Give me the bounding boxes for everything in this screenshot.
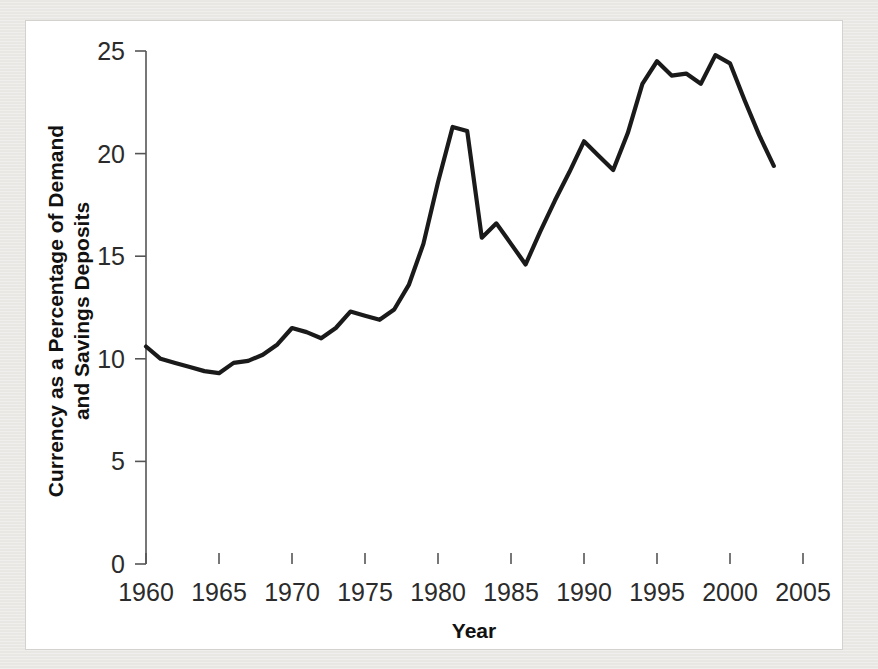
data-series-line bbox=[146, 55, 774, 373]
y-tick-marks bbox=[135, 51, 146, 564]
chart-panel: 0 5 10 15 20 25 1960 1965 1970 bbox=[25, 20, 843, 650]
x-tick-label-1995: 1995 bbox=[629, 578, 685, 606]
y-tick-label-20: 20 bbox=[97, 140, 125, 168]
x-tick-marks bbox=[146, 553, 803, 564]
y-tick-label-0: 0 bbox=[111, 550, 125, 578]
x-tick-label-1960: 1960 bbox=[118, 578, 174, 606]
y-tick-label-10: 10 bbox=[97, 345, 125, 373]
x-axis-title: Year bbox=[452, 619, 496, 642]
y-tick-label-15: 15 bbox=[97, 242, 125, 270]
x-tick-label-2005: 2005 bbox=[775, 578, 831, 606]
x-tick-label-2000: 2000 bbox=[702, 578, 758, 606]
y-tick-label-25: 25 bbox=[97, 37, 125, 65]
x-tick-label-1990: 1990 bbox=[556, 578, 612, 606]
y-axis-title-line2: and Savings Deposits bbox=[70, 202, 93, 420]
x-tick-label-1975: 1975 bbox=[337, 578, 393, 606]
x-tick-label-1970: 1970 bbox=[264, 578, 320, 606]
y-axis-title-line1: Currency as a Percentage of Demand bbox=[44, 125, 67, 497]
y-tick-label-5: 5 bbox=[111, 447, 125, 475]
page-background: 0 5 10 15 20 25 1960 1965 1970 bbox=[0, 0, 878, 669]
line-chart: 0 5 10 15 20 25 1960 1965 1970 bbox=[26, 21, 844, 651]
x-tick-label-1985: 1985 bbox=[483, 578, 539, 606]
x-tick-label-1980: 1980 bbox=[410, 578, 466, 606]
x-tick-label-1965: 1965 bbox=[191, 578, 247, 606]
